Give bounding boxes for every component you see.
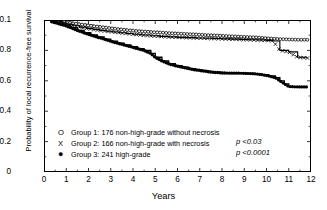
x-axis-label: Years [0,191,327,201]
legend-item-label: Group 2: 166 non-high-grade with necrosi… [71,139,209,148]
legend-item-label: Group 1: 176 non-high-grade without necr… [71,128,219,137]
survival-chart-figure: Probability of local recurrence-free sur… [0,0,327,210]
legend-item-label: Group 3: 241 high-grade [71,150,151,159]
y-axis-tick: 0.4 [0,106,11,115]
series-group-3 [44,20,308,88]
y-axis-tick: 0.6 [0,76,11,85]
filled-circle-icon: ● [58,151,71,158]
legend-item: ● Group 3: 241 high-grade [58,149,219,160]
p-value-second: p <0.0001 [236,147,270,158]
open-circle-icon: O [58,128,71,137]
p-value-annotations: p <0.03 p <0.0001 [236,136,270,158]
y-axis-tick: 0.8 [0,45,11,54]
cross-icon: X [58,139,71,148]
legend-item: O Group 1: 176 non-high-grade without ne… [58,127,219,138]
legend: O Group 1: 176 non-high-grade without ne… [58,127,219,160]
y-axis-tick: 0.1 [0,15,11,24]
x-axis-tick: 12 [296,175,326,184]
p-value-first: p <0.03 [236,136,270,147]
y-axis-tick: 0.2 [0,137,11,146]
legend-item: X Group 2: 166 non-high-grade with necro… [58,138,219,149]
y-axis-label: Probability of local recurrence-free sur… [24,1,33,161]
y-axis-tick: 0 [0,167,11,176]
